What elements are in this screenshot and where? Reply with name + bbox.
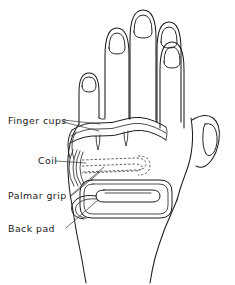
finger-cups-right-wall	[166, 127, 167, 140]
label-coil: Coil	[38, 155, 57, 166]
leader-line-palmar-grip-2	[70, 172, 100, 197]
hand-outline-group	[68, 10, 220, 283]
label-back-pad: Back pad	[8, 223, 55, 234]
thumb-outline	[177, 118, 193, 200]
diagram-canvas: Finger cups Coil Palmar grip Back pad	[0, 0, 235, 285]
hand-orthosis-diagram: Finger cups Coil Palmar grip Back pad	[0, 0, 235, 285]
coil-part	[69, 150, 150, 186]
leader-line-palmar-grip	[70, 167, 104, 196]
thumb-web-outline	[192, 115, 219, 167]
pinky-finger-nail	[82, 77, 96, 92]
pinky-finger-outline	[79, 73, 99, 124]
finger-cup-tab-1	[96, 135, 100, 150]
finger-cups-mid-edge	[71, 123, 166, 136]
palmar-grip-strap-inner	[76, 199, 98, 218]
ring-finger-nail	[161, 27, 177, 48]
callout-labels-group: Finger cups Coil Palmar grip Back pad	[8, 115, 67, 234]
coil-winding-4	[80, 152, 84, 184]
coil-winding-2	[73, 150, 78, 186]
label-palmar-grip: Palmar grip	[8, 190, 67, 201]
index-finger-nail	[109, 33, 125, 54]
ring-finger-outline	[157, 22, 181, 122]
thumb-nail	[203, 124, 217, 156]
hand-right-edge	[150, 200, 177, 283]
little-finger-nail	[164, 47, 180, 68]
hand-knuckle-contour	[99, 118, 105, 119]
palmar-grip-outline	[96, 190, 160, 202]
coil-outer-loop	[82, 158, 146, 172]
coil-inner-loop	[82, 164, 142, 173]
index-finger-outline	[105, 28, 129, 118]
leader-line-coil	[56, 161, 86, 163]
middle-finger-nail	[134, 15, 152, 38]
label-finger-cups: Finger cups	[8, 115, 67, 126]
palmar-grip-part	[72, 190, 160, 219]
hand-left-edge	[68, 124, 86, 283]
finger-cups-bottom-edge	[70, 130, 166, 143]
little-finger-outline	[160, 42, 184, 128]
coil-right-cap	[138, 156, 150, 175]
